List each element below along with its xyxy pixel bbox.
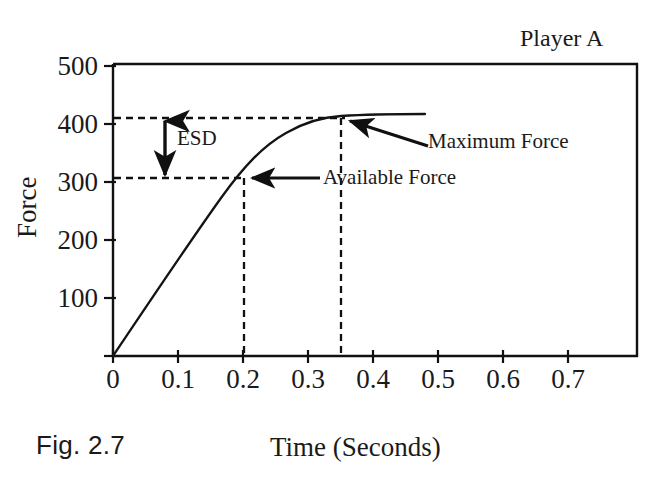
x-tick-label-0-4: 0.4 [343, 366, 403, 393]
series-title: Player A [520, 26, 603, 50]
x-axis-title: Time (Seconds) [270, 434, 441, 461]
y-axis-title: Force [14, 177, 41, 238]
figure-caption: Fig. 2.7 [36, 432, 125, 458]
y-tick-label-100: 100 [36, 285, 98, 312]
x-tick-label-0: 0 [83, 366, 143, 393]
figure-root: 500 400 300 200 100 0 0.1 0.2 0.3 0.4 0.… [0, 0, 668, 491]
force-curve [113, 114, 425, 356]
y-tick-label-300: 300 [36, 169, 98, 196]
x-tick-label-0-2: 0.2 [213, 366, 273, 393]
maximum-force-label: Maximum Force [428, 131, 569, 152]
y-tick-label-200: 200 [36, 227, 98, 254]
x-tick-label-0-7: 0.7 [538, 366, 598, 393]
x-tick-label-0-1: 0.1 [148, 366, 208, 393]
x-tick-label-0-6: 0.6 [473, 366, 533, 393]
y-tick-label-400: 400 [36, 111, 98, 138]
x-tick-label-0-5: 0.5 [408, 366, 468, 393]
reference-lines [114, 118, 345, 355]
esd-label: ESD [177, 128, 217, 149]
chart-canvas [0, 0, 668, 491]
available-force-label: Available Force [323, 167, 456, 188]
plot-frame [113, 64, 637, 356]
y-tick-label-500: 500 [36, 53, 98, 80]
x-tick-label-0-3: 0.3 [278, 366, 338, 393]
maximum-force-arrow [350, 121, 428, 146]
